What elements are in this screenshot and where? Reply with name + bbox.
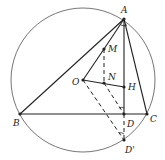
label-C: C [150,114,157,124]
point-H [122,85,125,88]
label-B: B [12,118,20,128]
label-N: N [107,72,117,82]
label-A: A [120,5,128,15]
label-O: O [72,77,80,87]
segment-ND [104,83,124,114]
angle-mark-D [119,107,124,108]
point-D-prime [122,138,125,141]
point-B [18,112,21,115]
point-M [102,47,105,50]
point-A [122,17,125,20]
segment-OD-prime [83,80,124,140]
label-D: D [126,119,134,129]
label-D-prime: D' [124,145,135,155]
point-C [145,112,148,115]
segment-AC [124,19,147,114]
point-N [102,81,105,84]
point-O [81,78,84,81]
geometry-diagram: A B C D D' O H N M [0,0,165,160]
label-M: M [107,44,118,54]
segment-AB [20,19,124,114]
label-H: H [127,82,136,92]
point-D [122,112,125,115]
